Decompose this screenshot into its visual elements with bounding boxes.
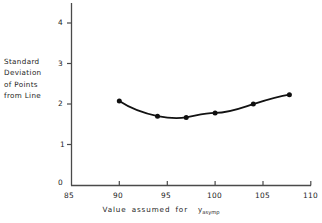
y-tick-marks bbox=[67, 23, 72, 145]
data-point bbox=[155, 114, 160, 119]
data-line bbox=[119, 95, 289, 118]
data-point bbox=[117, 99, 122, 104]
x-tick-marks bbox=[119, 181, 310, 186]
chart-figure: Standard Deviation of Points from Line 4… bbox=[0, 0, 322, 223]
x-axis-label-word-3: for bbox=[175, 205, 188, 214]
x-axis-label-subscript: asymp bbox=[202, 209, 219, 215]
data-point bbox=[213, 110, 218, 115]
plot-area bbox=[0, 0, 322, 223]
x-axis-label-word-2: assumed bbox=[132, 205, 171, 214]
x-axis-label-word-1: Value bbox=[102, 205, 126, 214]
data-point bbox=[287, 92, 292, 97]
data-points bbox=[117, 92, 292, 120]
x-axis-label: Valueassumedforyasymp bbox=[0, 205, 322, 215]
data-point bbox=[251, 102, 256, 107]
data-point bbox=[184, 115, 189, 120]
